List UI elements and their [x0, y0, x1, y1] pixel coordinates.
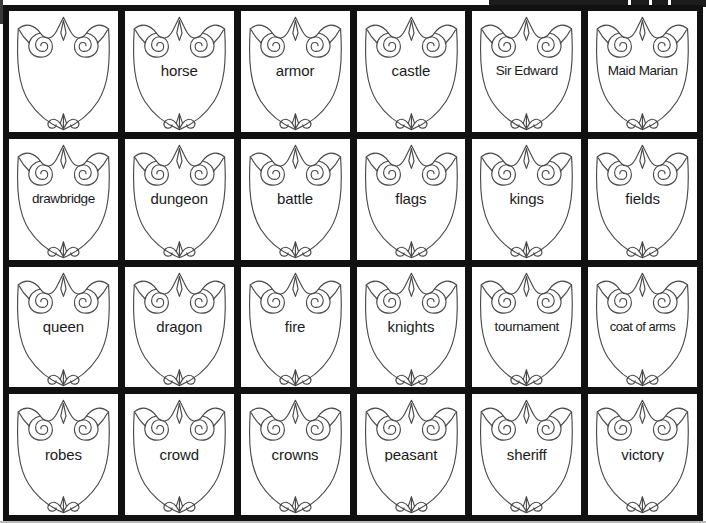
shield-cell-7[interactable]: dungeon — [125, 139, 234, 260]
shield-cell-8[interactable]: battle — [241, 139, 350, 260]
shield-label: sheriff — [474, 446, 579, 462]
shield-label: drawbridge — [11, 192, 116, 206]
shield-cell-4[interactable]: Sir Edward — [472, 11, 581, 132]
shield-label: dungeon — [127, 191, 232, 207]
shield-label: fire — [243, 319, 348, 335]
shield-label: robes — [11, 446, 116, 462]
shield-cell-0[interactable] — [9, 11, 118, 132]
shield-label: queen — [11, 319, 116, 335]
shield-cell-20[interactable]: crowns — [241, 394, 350, 515]
shield-label: Sir Edward — [474, 64, 579, 78]
shield-cell-12[interactable]: queen — [9, 267, 118, 388]
shield-label: crowns — [243, 446, 348, 462]
shield-label: tournament — [474, 320, 579, 334]
shield-icon — [9, 11, 118, 132]
shield-label: horse — [127, 63, 232, 79]
shield-cell-10[interactable]: kings — [472, 139, 581, 260]
shield-cell-23[interactable]: victory — [588, 394, 697, 515]
shield-label: peasant — [359, 446, 464, 462]
shield-cell-16[interactable]: tournament — [472, 267, 581, 388]
shield-cell-6[interactable]: drawbridge — [9, 139, 118, 260]
shield-label: coat of arms — [590, 320, 695, 334]
shield-cell-2[interactable]: armor — [241, 11, 350, 132]
shield-cell-14[interactable]: fire — [241, 267, 350, 388]
shield-cell-3[interactable]: castle — [357, 11, 466, 132]
shield-label: flags — [359, 191, 464, 207]
shield-cell-19[interactable]: crowd — [125, 394, 234, 515]
shield-cell-22[interactable]: sheriff — [472, 394, 581, 515]
shield-label: fields — [590, 191, 695, 207]
shield-cell-9[interactable]: flags — [357, 139, 466, 260]
shield-label: knights — [359, 319, 464, 335]
shield-cell-18[interactable]: robes — [9, 394, 118, 515]
shield-cell-5[interactable]: Maid Marian — [588, 11, 697, 132]
shield-label: kings — [474, 191, 579, 207]
shield-cell-13[interactable]: dragon — [125, 267, 234, 388]
shield-label: Maid Marian — [590, 64, 695, 78]
shield-label: armor — [243, 63, 348, 79]
worksheet-sheet: horse — [0, 0, 706, 523]
shield-grid: horse — [3, 5, 703, 521]
shield-label: dragon — [127, 319, 232, 335]
shield-label: battle — [243, 191, 348, 207]
shield-label: castle — [359, 63, 464, 79]
shield-cell-1[interactable]: horse — [125, 11, 234, 132]
shield-label: victory — [590, 446, 695, 462]
shield-cell-17[interactable]: coat of arms — [588, 267, 697, 388]
shield-label: crowd — [127, 446, 232, 462]
shield-cell-15[interactable]: knights — [357, 267, 466, 388]
shield-cell-11[interactable]: fields — [588, 139, 697, 260]
shield-cell-21[interactable]: peasant — [357, 394, 466, 515]
